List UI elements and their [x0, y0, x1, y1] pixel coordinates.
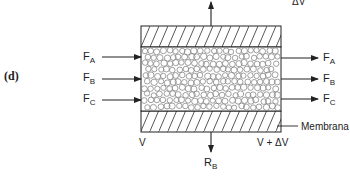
- membrane-reactor-diagram: (d) ΔV FA FB FC FA FB FC Membrana V V + …: [0, 0, 350, 178]
- volume-out-label: V + ΔV: [257, 137, 289, 148]
- permeate-label: RB: [204, 156, 217, 171]
- bottom-membrane-band: [141, 111, 281, 132]
- panel-label: (d): [4, 69, 19, 83]
- svg-text:FB: FB: [83, 71, 95, 86]
- svg-text:FB: FB: [323, 72, 335, 87]
- inlet-stream-a: FA: [83, 50, 141, 65]
- svg-text:FA: FA: [323, 51, 336, 66]
- outlet-stream-b: FB: [281, 72, 335, 87]
- svg-text:FC: FC: [83, 92, 96, 107]
- outlet-stream-a: FA: [281, 51, 336, 66]
- top-membrane-band: [141, 26, 281, 47]
- membrane-label: Membrana: [301, 121, 349, 132]
- delta-v-top-label: ΔV: [292, 0, 306, 7]
- inlet-stream-b: FB: [83, 71, 141, 86]
- svg-text:FA: FA: [83, 50, 96, 65]
- svg-text:FC: FC: [323, 92, 336, 107]
- outlet-stream-c: FC: [281, 92, 336, 107]
- inlet-stream-c: FC: [83, 92, 141, 107]
- volume-in-label: V: [139, 137, 146, 148]
